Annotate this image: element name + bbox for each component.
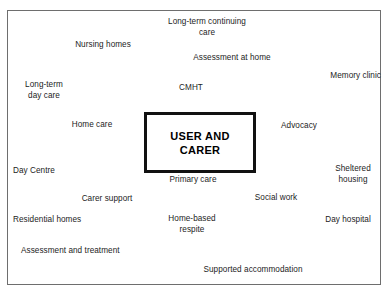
diagram-canvas: Long-term continuing careNursing homesAs… xyxy=(0,0,392,299)
service-label: Sheltered housing xyxy=(325,164,381,185)
diagram-outer-frame: Long-term continuing careNursing homesAs… xyxy=(7,10,381,285)
service-label: Advocacy xyxy=(273,121,325,132)
service-label: Long-term day care xyxy=(15,80,73,101)
service-label: Assessment and treatment xyxy=(21,246,143,257)
central-box-label: USER AND CARER xyxy=(170,129,229,157)
service-label: Primary care xyxy=(160,175,226,186)
service-label: Social work xyxy=(246,193,306,204)
service-label: Long-term continuing care xyxy=(147,17,267,38)
service-label: Residential homes xyxy=(13,215,97,226)
service-label: Home-based respite xyxy=(161,214,223,235)
service-label: Home care xyxy=(65,120,119,131)
service-label: Carer support xyxy=(77,194,137,205)
service-label: CMHT xyxy=(171,83,211,94)
service-label: Nursing homes xyxy=(67,40,139,51)
service-label: Supported accommodation xyxy=(191,265,315,276)
service-label: Day hospital xyxy=(317,215,379,226)
service-label: Day Centre xyxy=(13,166,71,177)
service-label: Memory clinic xyxy=(311,71,381,82)
central-user-and-carer-box: USER AND CARER xyxy=(144,112,256,173)
service-label: Assessment at home xyxy=(186,53,278,64)
